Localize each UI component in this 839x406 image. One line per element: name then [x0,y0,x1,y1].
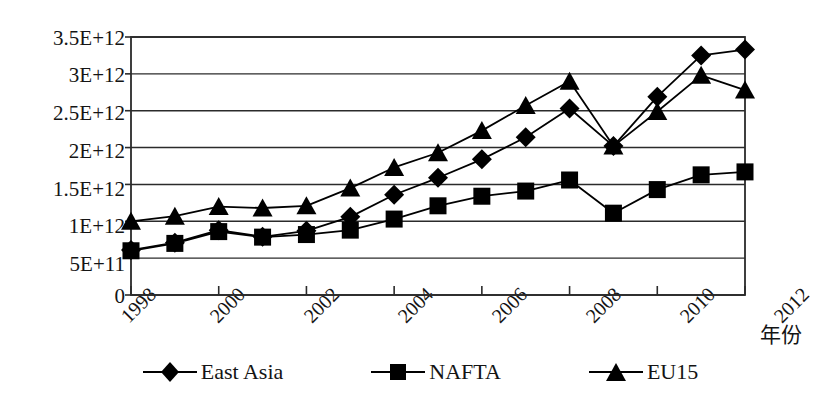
legend-label: NAFTA [429,361,501,383]
triangle-marker-icon [587,360,645,384]
plot-frame [131,37,745,295]
square-marker-icon [369,360,427,384]
legend-label: East Asia [201,361,284,383]
legend-item-east-asia[interactable]: East Asia [141,360,284,384]
chart-legend: East Asia NAFTA EU15 [0,352,839,392]
legend-item-eu15[interactable]: EU15 [587,360,698,384]
line-chart: 3.5E+12 3E+12 2.5E+12 2E+12 1.5E+12 1E+1… [0,0,839,406]
diamond-marker-icon [141,360,199,384]
legend-item-nafta[interactable]: NAFTA [369,360,501,384]
plot-area [0,0,839,406]
legend-label: EU15 [647,361,698,383]
x-axis-ticks [125,37,745,295]
gridlines [131,37,745,295]
